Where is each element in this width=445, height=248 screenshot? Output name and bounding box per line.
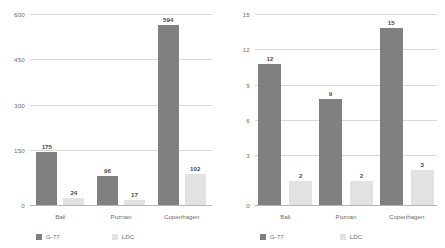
xtick-label-bali: Bali <box>30 213 91 220</box>
bar-ldc[interactable]: 2 <box>350 181 373 205</box>
bar-value-label: 2 <box>299 172 302 179</box>
ytick-label: 0 <box>21 202 25 209</box>
bar-ldc[interactable]: 24 <box>63 198 84 205</box>
legend-label: LDC <box>350 233 362 240</box>
bar-value-label: 102 <box>190 165 200 172</box>
left-plot-area: 600 450 300 150 0 175 <box>30 14 212 205</box>
bar-value-label: 2 <box>360 172 363 179</box>
ytick-label: 450 <box>14 56 25 63</box>
bar-group-copenhagen: 594 102 <box>151 14 212 205</box>
bar-value-label: 12 <box>266 55 273 62</box>
bar-group-copenhagen: 15 3 <box>376 14 437 205</box>
bar-value-label: 9 <box>329 90 332 97</box>
bar-g77[interactable]: 175 <box>36 152 57 205</box>
legend-item-g77[interactable]: G-77 <box>260 233 284 240</box>
legend-item-ldc[interactable]: LDC <box>112 233 134 240</box>
bar-group-poznan: 9 2 <box>316 14 377 205</box>
xtick-label-bali: Bali <box>255 213 316 220</box>
xtick-label-poznan: Poznan <box>91 213 152 220</box>
ytick-label: 0 <box>246 202 250 209</box>
bar-ldc[interactable]: 3 <box>411 170 434 205</box>
left-legend: G-77 LDC <box>36 233 134 240</box>
legend-swatch-icon <box>36 234 42 240</box>
right-plot-area: 15 12 9 6 3 0 12 <box>255 14 437 205</box>
left-bar-groups: 175 24 96 17 <box>30 14 212 205</box>
bar-g77[interactable]: 12 <box>258 64 281 205</box>
xtick-label-poznan: Poznan <box>316 213 377 220</box>
bar-value-label: 15 <box>388 19 395 26</box>
bar-value-label: 24 <box>70 189 77 196</box>
bar-ldc[interactable]: 102 <box>185 174 206 205</box>
left-chart-panel: 600 450 300 150 0 175 <box>0 0 222 248</box>
axis-baseline: 0 <box>30 205 212 206</box>
bar-group-bali: 12 2 <box>255 14 316 205</box>
ytick-label: 150 <box>14 147 25 154</box>
legend-swatch-icon <box>340 234 346 240</box>
ytick-label: 600 <box>14 11 25 18</box>
bar-group-bali: 175 24 <box>30 14 91 205</box>
right-legend: G-77 LDC <box>260 233 362 240</box>
bar-value-label: 594 <box>163 16 173 23</box>
legend-swatch-icon <box>112 234 118 240</box>
legend-swatch-icon <box>260 234 266 240</box>
right-chart-panel: 15 12 9 6 3 0 12 <box>222 0 445 248</box>
right-bar-groups: 12 2 9 2 <box>255 14 437 205</box>
bar-g77[interactable]: 594 <box>158 25 179 205</box>
ytick-label: 12 <box>243 46 250 53</box>
legend-label: G-77 <box>46 233 60 240</box>
axis-baseline: 0 <box>255 205 437 206</box>
bar-g77[interactable]: 96 <box>97 176 118 205</box>
bar-value-label: 3 <box>420 161 423 168</box>
xtick-label-copenhagen: Copenhagen <box>151 213 212 220</box>
bar-g77[interactable]: 9 <box>319 99 342 205</box>
xtick-label-copenhagen: Copenhagen <box>376 213 437 220</box>
bar-ldc[interactable]: 2 <box>289 181 312 205</box>
legend-item-ldc[interactable]: LDC <box>340 233 362 240</box>
ytick-label: 15 <box>243 11 250 18</box>
bar-value-label: 17 <box>131 191 138 198</box>
ytick-label: 9 <box>246 81 250 88</box>
left-x-axis-labels: Bali Poznan Copenhagen <box>30 213 212 220</box>
ytick-label: 6 <box>246 117 250 124</box>
ytick-label: 300 <box>14 101 25 108</box>
bar-ldc[interactable]: 17 <box>124 200 145 205</box>
bar-group-poznan: 96 17 <box>91 14 152 205</box>
bar-value-label: 175 <box>42 143 52 150</box>
legend-label: LDC <box>122 233 134 240</box>
right-x-axis-labels: Bali Poznan Copenhagen <box>255 213 437 220</box>
bar-g77[interactable]: 15 <box>380 28 403 205</box>
bar-value-label: 96 <box>104 167 111 174</box>
dual-bar-chart-figure: 600 450 300 150 0 175 <box>0 0 445 248</box>
legend-label: G-77 <box>270 233 284 240</box>
legend-item-g77[interactable]: G-77 <box>36 233 60 240</box>
ytick-label: 3 <box>246 152 250 159</box>
